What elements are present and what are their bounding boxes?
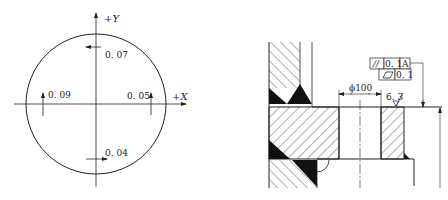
upper-wall-section <box>269 42 300 88</box>
datum-label: A <box>401 59 409 69</box>
y-axis-label: +Y <box>104 13 120 24</box>
weld-upper-left <box>269 88 287 104</box>
ring-section <box>381 107 404 159</box>
measurement-left: 0. 09 <box>48 90 71 100</box>
drawing-canvas: +Y +X 0. 07 0. 09 0. 05 0. 04 <box>0 0 448 200</box>
measurement-bottom: 0. 04 <box>105 148 128 158</box>
measurement-top: 0. 07 <box>105 50 128 60</box>
weld-ring <box>404 153 410 159</box>
parallelism-icon: // <box>372 59 380 69</box>
section-view-figure: ϕ100 6. 3 // 0. 1 A 0. 1 <box>269 42 442 188</box>
parallelism-tolerance: 0. 1 <box>385 59 402 69</box>
measurement-circle-figure: +Y +X 0. 07 0. 09 0. 05 0. 04 <box>14 13 188 187</box>
diameter-dimension: ϕ100 <box>349 83 373 93</box>
measurement-right: 0. 05 <box>127 91 150 101</box>
fillet-arc <box>317 160 329 172</box>
flatness-tolerance: 0. 1 <box>396 70 413 80</box>
x-axis-label: +X <box>172 91 188 102</box>
